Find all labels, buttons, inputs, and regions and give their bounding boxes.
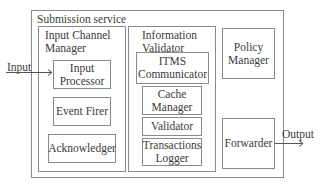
input-arrow	[6, 70, 52, 76]
output-arrow	[275, 141, 303, 147]
arrows-layer	[0, 0, 321, 188]
